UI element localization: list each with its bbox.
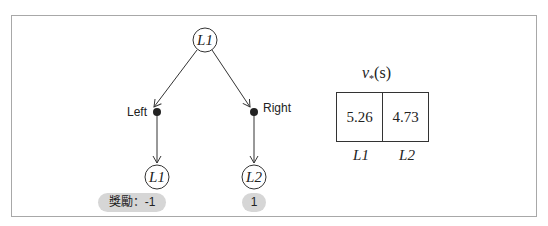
root-node-label: L1 — [196, 32, 213, 48]
action-dot-left — [153, 108, 161, 116]
reward-badge-right: 1 — [242, 193, 266, 212]
tree-diagram: L1 Left Right L1 L2 — [0, 0, 548, 226]
column-label-l1: L1 — [338, 147, 384, 164]
child-node-l2-label: L2 — [245, 169, 262, 185]
value-table-row: 5.26 4.73 — [337, 93, 429, 142]
column-label-l2: L2 — [384, 147, 430, 164]
child-node-l1: L1 — [145, 165, 169, 189]
value-cell-l2: 4.73 — [383, 93, 429, 142]
value-cell-l1: 5.26 — [337, 93, 383, 142]
action-label-right: Right — [263, 101, 292, 115]
value-table: 5.26 4.73 — [336, 92, 429, 142]
edge-root-left — [154, 50, 197, 107]
value-arg: (s) — [374, 64, 391, 81]
value-table-title: v*(s) — [362, 64, 391, 84]
child-node-l2: L2 — [242, 165, 266, 189]
action-dot-right — [250, 108, 258, 116]
edge-root-right — [212, 50, 250, 107]
reward-badge-left: 獎勵：-1 — [98, 193, 166, 212]
child-node-l1-label: L1 — [148, 169, 165, 185]
root-node: L1 — [193, 28, 217, 52]
action-label-left: Left — [127, 105, 148, 119]
